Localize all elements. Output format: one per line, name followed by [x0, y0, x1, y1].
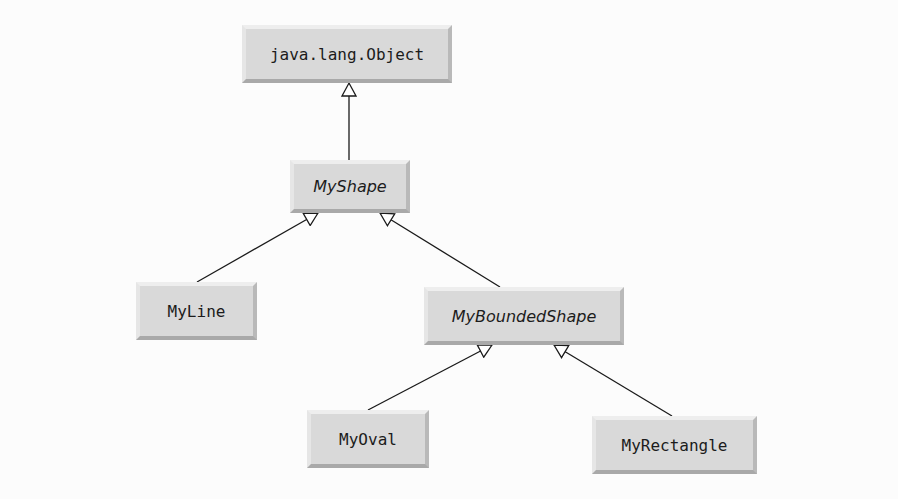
edge-myline-myshape	[197, 213, 318, 282]
class-myline: MyLine	[136, 282, 257, 340]
class-myboundedshape: MyBoundedShape	[424, 287, 624, 345]
class-myrectangle: MyRectangle	[592, 416, 757, 474]
class-java-lang-object: java.lang.Object	[242, 25, 452, 83]
edge-myrectangle-myboundedshape	[554, 345, 672, 416]
edge-myoval-myboundedshape	[368, 345, 492, 410]
class-myshape: MyShape	[290, 160, 410, 213]
class-myoval: MyOval	[307, 410, 429, 468]
class-diagram: java.lang.Object MyShape MyLine MyBounde…	[0, 0, 898, 499]
edge-myboundedshape-myshape	[380, 213, 500, 287]
